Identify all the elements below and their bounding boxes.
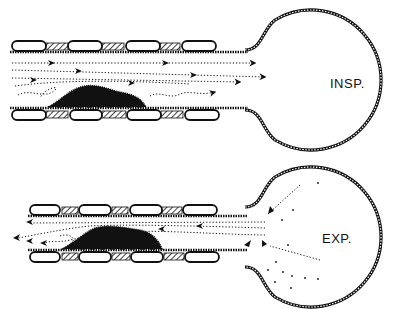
mucus-obstruction <box>48 86 146 107</box>
airway-wall-bottom <box>10 108 248 120</box>
insp-label: INSP. <box>330 76 365 91</box>
exp-label: EXP. <box>322 231 352 246</box>
mucus-obstruction <box>62 226 162 249</box>
flow-arrowheads <box>30 60 197 86</box>
airway-wall-top <box>28 205 248 216</box>
airway-flow-diagram: INSP. <box>0 0 399 309</box>
inspiration-panel: INSP. <box>10 10 381 150</box>
airway-wall-top <box>10 41 248 52</box>
airway-wall-bottom <box>28 250 248 262</box>
airflow-lines <box>12 63 265 98</box>
dispersed-air-dots <box>267 182 319 289</box>
expiration-panel: EXP. <box>13 167 381 307</box>
alveolar-sac <box>245 167 381 307</box>
